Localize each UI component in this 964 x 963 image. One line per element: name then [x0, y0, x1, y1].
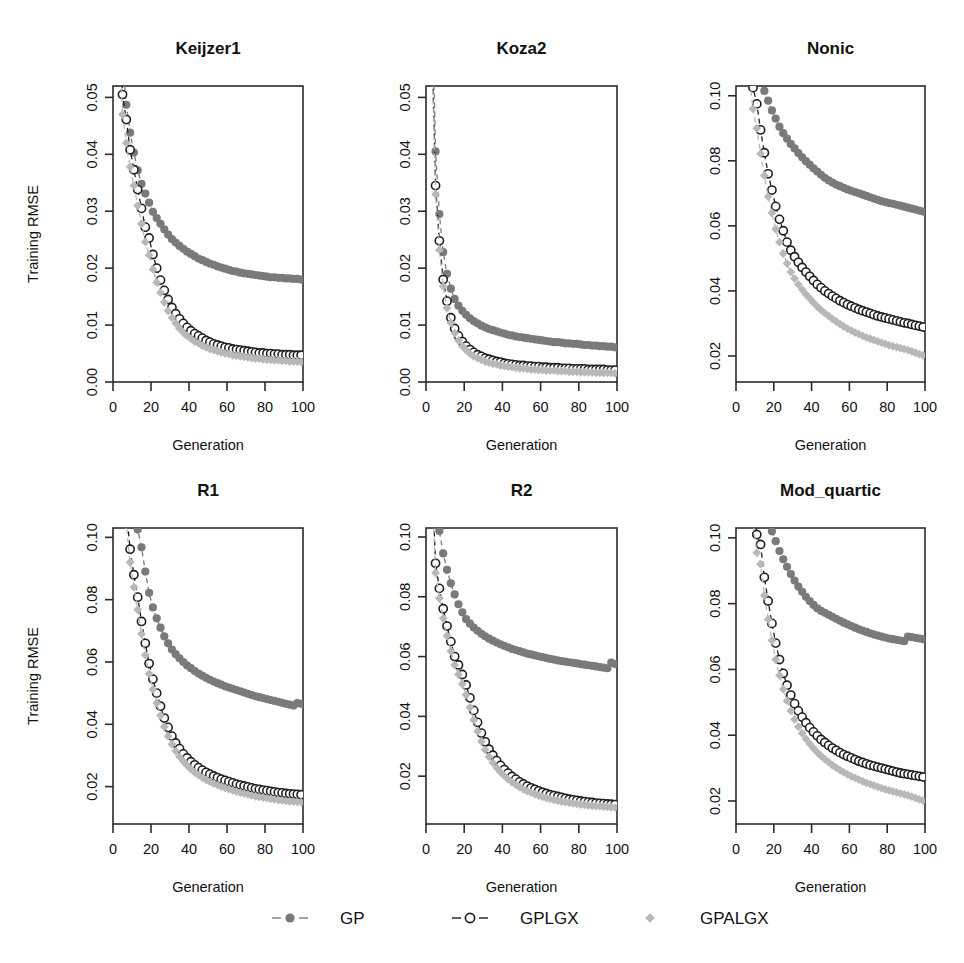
- marker-filled-diamond: [783, 259, 792, 268]
- x-tick-label: 60: [219, 399, 235, 415]
- y-tick-label: 0.05: [84, 83, 100, 111]
- x-axis-label: Generation: [172, 879, 244, 895]
- x-tick-label: 20: [766, 841, 782, 857]
- marker-filled-circle: [141, 568, 149, 576]
- marker-filled-circle: [458, 608, 466, 616]
- marker-filled-circle: [919, 207, 927, 215]
- x-axis-label: Generation: [486, 879, 558, 895]
- marker-open-circle: [768, 186, 776, 194]
- panel-title: Keijzer1: [175, 39, 240, 58]
- marker-filled-circle: [439, 549, 447, 557]
- marker-open-circle: [130, 571, 138, 579]
- x-tick-label: 20: [456, 841, 472, 857]
- y-tick-label: 0.08: [707, 590, 723, 618]
- panel-r1: R10.020.040.060.080.10020406080100Genera…: [25, 148, 315, 895]
- x-tick-label: 0: [109, 399, 117, 415]
- marker-filled-circle: [772, 537, 780, 545]
- y-tick-label: 0.02: [707, 787, 723, 815]
- series-layer: [115, 148, 306, 807]
- x-tick-label: 80: [571, 841, 587, 857]
- legend-marker-open-circle: [465, 913, 474, 922]
- x-tick-label: 40: [181, 399, 197, 415]
- marker-filled-circle: [760, 87, 768, 95]
- x-tick-label: 0: [732, 399, 740, 415]
- x-tick-label: 40: [494, 399, 510, 415]
- series-line: [115, 241, 301, 802]
- marker-open-circle: [749, 499, 757, 507]
- marker-filled-circle: [783, 563, 791, 571]
- marker-filled-circle: [145, 589, 153, 597]
- y-tick-label: 0.10: [397, 523, 413, 551]
- x-tick-label: 100: [291, 399, 315, 415]
- y-tick-label: 0.06: [707, 212, 723, 240]
- y-tick-label: 0.00: [397, 368, 413, 396]
- marker-filled-circle: [156, 624, 164, 632]
- x-tick-label: 0: [109, 841, 117, 857]
- panel-title: R1: [197, 481, 219, 500]
- panel-title: Mod_quartic: [780, 481, 881, 500]
- marker-open-circle: [122, 505, 130, 513]
- y-tick-label: 0.04: [84, 140, 100, 168]
- panel-title: R2: [511, 481, 533, 500]
- y-tick-label: 0.04: [707, 277, 723, 305]
- x-axis-label: Generation: [795, 879, 867, 895]
- marker-filled-diamond: [137, 630, 146, 639]
- marker-open-circle: [749, 84, 757, 92]
- y-axis-label: Training RMSE: [25, 185, 41, 283]
- series-gplgx: [738, 176, 927, 781]
- marker-filled-circle: [768, 527, 776, 535]
- x-tick-label: 40: [494, 841, 510, 857]
- x-tick-label: 0: [422, 399, 430, 415]
- y-tick-label: 0.06: [707, 655, 723, 683]
- x-tick-label: 80: [879, 399, 895, 415]
- y-tick-label: 0.01: [397, 311, 413, 339]
- series-line: [738, 110, 923, 641]
- marker-filled-diamond: [756, 560, 765, 569]
- y-tick-label: 0.10: [707, 82, 723, 110]
- legend-label: GPLGX: [520, 909, 579, 928]
- rmse-convergence-figure: Keijzer10.000.010.020.030.040.0502040608…: [0, 0, 964, 963]
- legend-marker-filled-circle: [285, 913, 294, 922]
- x-tick-label: 0: [422, 841, 430, 857]
- panel-title: Nonic: [807, 39, 854, 58]
- marker-filled-diamond: [775, 238, 784, 247]
- legend-item-gp[interactable]: GP: [272, 909, 365, 928]
- panel-koza2: Koza20.000.010.020.030.040.0502040608010…: [397, 0, 629, 453]
- x-tick-label: 40: [804, 399, 820, 415]
- marker-open-circle: [745, 53, 753, 61]
- marker-open-circle: [435, 584, 443, 592]
- marker-filled-diamond: [431, 568, 440, 577]
- x-tick-label: 20: [456, 399, 472, 415]
- marker-filled-circle: [768, 106, 776, 114]
- panel-keijzer1: Keijzer10.000.010.020.030.040.0502040608…: [25, 0, 315, 453]
- x-tick-label: 60: [533, 399, 549, 415]
- x-axis-label: Generation: [486, 437, 558, 453]
- marker-filled-circle: [130, 502, 138, 510]
- legend-item-gpalgx[interactable]: GPALGX: [645, 909, 768, 928]
- series-line: [428, 358, 615, 808]
- series-line: [115, 226, 301, 795]
- series-gplgx: [115, 226, 305, 799]
- legend-item-gplgx[interactable]: GPLGX: [452, 909, 579, 928]
- marker-open-circle: [439, 605, 447, 613]
- x-tick-label: 80: [257, 841, 273, 857]
- marker-filled-circle: [611, 343, 619, 351]
- marker-filled-circle: [134, 525, 142, 533]
- y-tick-label: 0.02: [84, 254, 100, 282]
- series-gp: [738, 110, 927, 645]
- y-tick-label: 0.01: [84, 311, 100, 339]
- y-tick-label: 0.04: [707, 721, 723, 749]
- marker-open-circle: [760, 573, 768, 581]
- marker-filled-circle: [447, 285, 455, 293]
- series-layer: [738, 110, 928, 805]
- marker-filled-circle: [775, 547, 783, 555]
- marker-filled-circle: [919, 635, 927, 643]
- y-tick-label: 0.02: [707, 342, 723, 370]
- marker-filled-circle: [451, 590, 459, 598]
- x-tick-label: 60: [841, 399, 857, 415]
- legend-label: GPALGX: [700, 909, 769, 928]
- marker-open-circle: [919, 773, 927, 781]
- x-tick-label: 20: [766, 399, 782, 415]
- y-tick-label: 0.02: [84, 772, 100, 800]
- series-gpalgx: [115, 241, 306, 806]
